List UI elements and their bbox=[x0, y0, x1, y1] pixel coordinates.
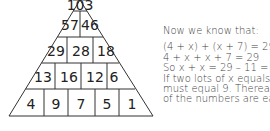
pyramid-cell: 12 bbox=[86, 69, 104, 85]
pyramid-cell: 7 bbox=[77, 96, 86, 112]
pyramid-row-3: 29 28 18 bbox=[47, 43, 115, 59]
pyramid-cell: 46 bbox=[81, 17, 99, 33]
pyramid-cell: 57 bbox=[61, 17, 79, 33]
pyramid-cell: 18 bbox=[97, 43, 115, 59]
pyramid-cell: 5 bbox=[103, 96, 112, 112]
pyramid-cell: 4 bbox=[27, 96, 36, 112]
pyramid-cell: 1 bbox=[128, 96, 137, 112]
pyramid-cell: 29 bbox=[47, 43, 65, 59]
pyramid-row-1: 103 bbox=[67, 0, 94, 13]
pyramid-cell: 6 bbox=[110, 69, 119, 85]
number-pyramid: 103 57 46 29 28 18 13 16 12 6 4 9 7 5 1 bbox=[0, 0, 165, 131]
pyramid-cell: 28 bbox=[72, 43, 90, 59]
intro-line: Now we know that: bbox=[163, 26, 270, 36]
pyramid-cell: 13 bbox=[34, 69, 52, 85]
explanation-text: Now we know that: (4 + x) + (x + 7) = 29… bbox=[163, 26, 270, 105]
pyramid-cell: 9 bbox=[52, 96, 61, 112]
pyramid-cell: 103 bbox=[67, 0, 94, 13]
pyramid-cell: 16 bbox=[60, 69, 78, 85]
pyramid-row-5: 4 9 7 5 1 bbox=[27, 96, 137, 112]
pyramid-row-4: 13 16 12 6 bbox=[34, 69, 118, 85]
body-line: of the numbers are easy bbox=[163, 94, 270, 104]
